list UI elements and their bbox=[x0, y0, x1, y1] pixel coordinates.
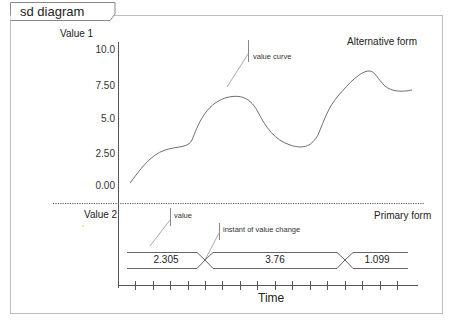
value-segment-3: 1.099 bbox=[347, 255, 407, 265]
value2-axis-title: Value 2 bbox=[84, 210, 117, 220]
value-curve bbox=[130, 71, 412, 183]
y-tick-label: 5.0 bbox=[75, 114, 115, 124]
value-annotation: value bbox=[174, 212, 192, 220]
stray-dot bbox=[82, 225, 84, 227]
alternative-form-label: Alternative form bbox=[347, 37, 417, 47]
change-leader bbox=[205, 233, 219, 260]
y-tick-label: 0.00 bbox=[75, 181, 115, 191]
y-tick-label: 10.0 bbox=[75, 45, 115, 55]
value-leader bbox=[150, 220, 170, 246]
time-axis-label: Time bbox=[258, 292, 284, 304]
value-curve-annotation: value curve bbox=[253, 53, 291, 61]
y-tick-label: 7.50 bbox=[75, 81, 115, 91]
value-curve-leader bbox=[227, 54, 248, 87]
y-tick-label: 2.50 bbox=[75, 149, 115, 159]
primary-form-label: Primary form bbox=[374, 211, 431, 221]
value-change-annotation: instant of value change bbox=[223, 226, 300, 234]
value-segment-2: 3.76 bbox=[245, 255, 305, 265]
value-segment-1: 2.305 bbox=[136, 255, 196, 265]
diagram-canvas bbox=[0, 0, 449, 320]
value1-axis-title: Value 1 bbox=[60, 29, 93, 39]
frame-tab-label: sd diagram bbox=[20, 5, 84, 18]
